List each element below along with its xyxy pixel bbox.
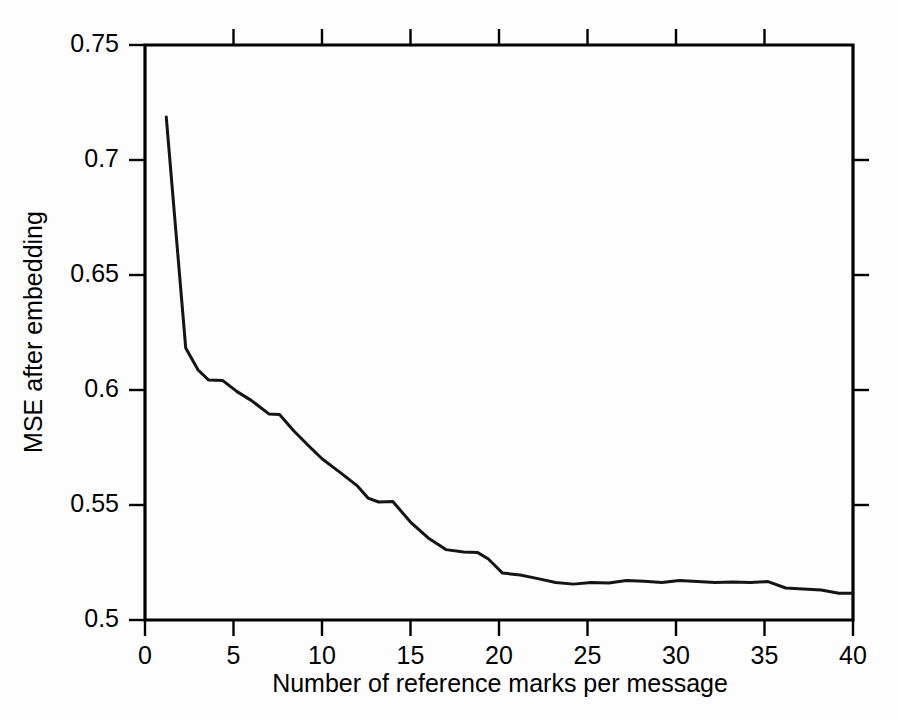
x-tick-label: 0 (138, 641, 152, 669)
x-tick-label: 35 (751, 641, 779, 669)
chart-figure: 0.50.550.60.650.70.75 0510152025303540 M… (0, 0, 898, 720)
y-axis-tick-labels: 0.50.550.60.650.70.75 (70, 29, 119, 632)
y-tick-label: 0.5 (84, 604, 119, 632)
x-tick-label: 5 (227, 641, 241, 669)
right-axis-ticks (853, 160, 869, 505)
x-tick-label: 30 (662, 641, 690, 669)
axis-frame (145, 45, 853, 620)
y-tick-label: 0.7 (84, 144, 119, 172)
x-axis-tick-labels: 0510152025303540 (138, 641, 867, 669)
line-chart: 0.50.550.60.650.70.75 0510152025303540 M… (0, 0, 898, 720)
x-tick-label: 20 (485, 641, 513, 669)
y-axis-title: MSE after embedding (19, 211, 47, 453)
x-axis-title: Number of reference marks per message (272, 669, 728, 697)
x-tick-label: 15 (397, 641, 425, 669)
x-axis-ticks (145, 620, 853, 636)
y-axis-ticks (129, 45, 145, 620)
y-tick-label: 0.75 (70, 29, 119, 57)
data-series-line (166, 117, 853, 593)
x-tick-label: 25 (574, 641, 602, 669)
x-tick-label: 10 (308, 641, 336, 669)
y-tick-label: 0.65 (70, 259, 119, 287)
y-tick-label: 0.6 (84, 374, 119, 402)
y-tick-label: 0.55 (70, 489, 119, 517)
top-axis-ticks (234, 29, 765, 45)
x-tick-label: 40 (839, 641, 867, 669)
